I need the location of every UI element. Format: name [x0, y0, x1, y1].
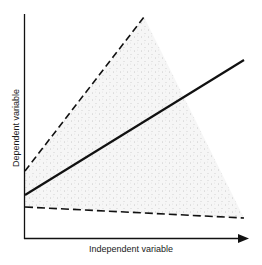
y-axis-label: Dependent variable [11, 89, 21, 167]
confidence-region [25, 17, 244, 218]
regression-diagram: Independent variable Dependent variable [0, 0, 262, 265]
x-axis-label: Independent variable [89, 244, 173, 254]
x-axis-arrow-icon [238, 234, 249, 243]
